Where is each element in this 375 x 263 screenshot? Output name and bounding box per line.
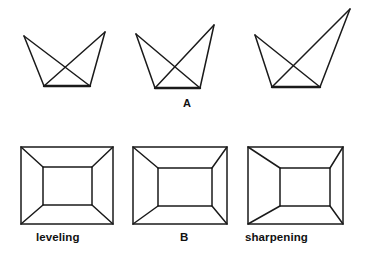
a3-right-edge (320, 9, 350, 87)
row-b-group (21, 147, 343, 224)
row-a-label: A (183, 98, 191, 109)
row-b-figure-3 (248, 147, 343, 224)
caption-leveling: leveling (36, 232, 80, 244)
b2-corner-top-left (133, 147, 158, 168)
a2-diagonal-right-to-bottom-left (155, 25, 214, 88)
a3-diagonal-left-to-bottom-right (255, 35, 320, 87)
row-b-label: B (180, 232, 188, 244)
row-a-figure-3 (255, 9, 350, 87)
b2-corner-top-right (212, 147, 227, 168)
caption-sharpening: sharpening (245, 232, 308, 244)
b1-corner-bottom-right (92, 205, 113, 224)
b3-corner-top-right (330, 147, 343, 168)
row-a-group (24, 9, 350, 88)
b3-corner-top-left (248, 147, 280, 168)
row-b-figure-1 (21, 147, 113, 224)
b2-inner-rectangle (158, 168, 212, 206)
a3-diagonal-right-to-bottom-left (272, 9, 350, 87)
b1-corner-top-right (92, 147, 113, 167)
a1-right-edge (90, 32, 105, 86)
b3-corner-bottom-left (248, 206, 280, 224)
a2-right-edge (200, 25, 214, 88)
b3-inner-rectangle (280, 168, 330, 206)
b3-outer-rectangle (248, 147, 343, 224)
b1-corner-top-left (21, 147, 43, 167)
row-a-figure-2 (136, 25, 214, 88)
figure-canvas: A leveling B sharpening (0, 0, 375, 263)
row-a-figure-1 (24, 32, 105, 86)
a3-left-edge (255, 35, 272, 87)
line-drawing-svg (0, 0, 375, 263)
b2-corner-bottom-left (133, 206, 158, 224)
b3-corner-bottom-right (330, 206, 343, 224)
row-b-figure-2 (133, 147, 227, 224)
b1-inner-rectangle (43, 167, 92, 205)
b2-corner-bottom-right (212, 206, 227, 224)
b1-corner-bottom-left (21, 205, 43, 224)
